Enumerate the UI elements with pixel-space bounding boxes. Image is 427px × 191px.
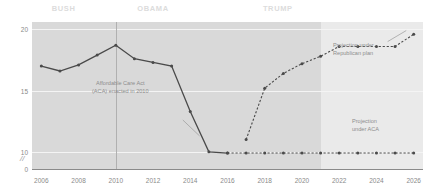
x-tick-2008: 2008 (71, 177, 85, 184)
data-point (226, 152, 229, 155)
x-tick-2022: 2022 (332, 177, 346, 184)
data-point (207, 150, 210, 153)
x-tick-2010: 2010 (109, 177, 123, 184)
x-axis: 2006200820102012201420162018202020222024… (0, 177, 427, 189)
data-point (133, 57, 136, 60)
data-point (356, 152, 359, 155)
data-point (394, 45, 397, 48)
series-line-historical-uninsured (41, 45, 227, 153)
data-point (300, 152, 303, 155)
y-tick-20: 20 (21, 26, 28, 33)
x-tick-2012: 2012 (146, 177, 160, 184)
data-point (338, 152, 341, 155)
data-point (412, 152, 415, 155)
data-point (40, 65, 43, 68)
data-point (375, 152, 378, 155)
y-axis-break-icon: // (20, 153, 32, 165)
data-point (170, 65, 173, 68)
data-point (245, 138, 248, 141)
y-tick-0: 0 (24, 166, 28, 173)
annotation-aca-projection: Projection under ACA (352, 118, 379, 133)
y-axis: 20 15 10 0 // (0, 0, 32, 191)
annotation-leader-line (183, 120, 200, 136)
annotation-leader-line-republican (388, 31, 407, 42)
era-label-trump: TRUMP (263, 4, 293, 13)
data-point (282, 152, 285, 155)
x-axis-line (32, 169, 423, 170)
data-point (96, 54, 99, 57)
data-point (189, 110, 192, 113)
data-point (58, 70, 61, 73)
series-line-projection-under-republican-plan (246, 34, 414, 139)
annotation-republican-projection: Projection under Republican plan (333, 42, 374, 57)
chart-container: 20 15 10 0 // 20062008201020122014201620… (0, 0, 427, 191)
data-point (152, 61, 155, 64)
x-tick-2014: 2014 (183, 177, 197, 184)
era-label-obama: OBAMA (137, 4, 168, 13)
annotation-aca-enacted: Affordable Care Act (ACA) enacted in 201… (92, 80, 149, 95)
data-point (245, 152, 248, 155)
data-point (114, 44, 117, 47)
x-tick-2026: 2026 (406, 177, 420, 184)
data-point (263, 152, 266, 155)
data-point (282, 72, 285, 75)
data-point (319, 55, 322, 58)
data-point (77, 63, 80, 66)
data-point (263, 87, 266, 90)
data-point (412, 33, 415, 36)
data-point (375, 45, 378, 48)
data-point (319, 152, 322, 155)
y-tick-15: 15 (21, 87, 28, 94)
x-tick-2006: 2006 (34, 177, 48, 184)
era-label-bush: BUSH (52, 4, 76, 13)
x-tick-2024: 2024 (369, 177, 383, 184)
data-point (394, 152, 397, 155)
x-tick-2016: 2016 (220, 177, 234, 184)
x-tick-2018: 2018 (258, 177, 272, 184)
data-point (300, 62, 303, 65)
x-tick-2020: 2020 (295, 177, 309, 184)
